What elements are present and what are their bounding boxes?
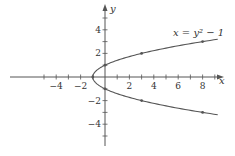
y-tick-label: −4 (88, 119, 102, 129)
data-point (104, 64, 107, 67)
data-point (201, 111, 204, 114)
y-tick-label: −2 (88, 96, 101, 106)
labels: x y x = y² − 1 (109, 3, 225, 86)
y-tick-label: 4 (95, 25, 101, 35)
y-axis-arrow-icon (103, 4, 108, 11)
data-point (140, 52, 143, 55)
data-point (201, 40, 204, 43)
x-tick-label: 2 (127, 81, 133, 91)
x-tick-label: 6 (175, 81, 181, 91)
data-point (104, 87, 107, 90)
x-axis-label: x (219, 75, 225, 86)
parabola-plot: −4−2246842−2−4 x y x = y² − 1 (0, 0, 235, 156)
x-tick-label: −2 (74, 81, 87, 91)
y-tick-label: 2 (95, 48, 101, 58)
x-tick-label: −4 (50, 81, 64, 91)
x-tick-label: 4 (151, 81, 157, 91)
x-tick-label: 8 (200, 81, 206, 91)
y-axis-label: y (109, 3, 116, 14)
equation-label: x = y² − 1 (173, 27, 224, 38)
data-point (91, 76, 94, 79)
data-point (140, 99, 143, 102)
